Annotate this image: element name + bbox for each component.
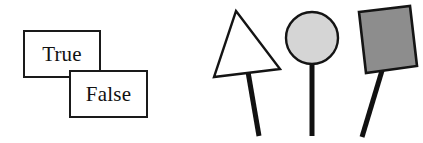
square-sign: [359, 6, 417, 137]
square-icon: [359, 6, 417, 73]
false-label-box: False: [69, 70, 148, 118]
circle-icon: [286, 12, 338, 64]
circle-sign: [286, 12, 338, 136]
false-label-text: False: [86, 84, 131, 105]
figure-canvas: True False: [0, 0, 423, 143]
triangle-sign: [214, 11, 280, 136]
square-stick: [362, 64, 384, 137]
triangle-icon: [214, 11, 280, 77]
true-label-text: True: [42, 44, 82, 65]
triangle-stick: [247, 66, 259, 136]
